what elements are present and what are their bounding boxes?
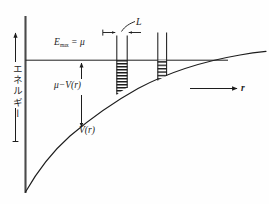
potential-curve-label: V(r) [79,126,95,136]
barrier-width-label: L [136,17,142,27]
barrier-one [117,36,128,95]
potential-barrier-figure: エネルギー Emax = μ μ−V(r) V(r) L r [0,0,269,204]
potential-curve [26,51,267,192]
barrier-two [158,33,167,81]
energy-equals-mu: = μ [69,37,85,47]
vertical-axis-label-energy: エネルギー [12,64,22,120]
figure-drawing-canvas [0,0,269,204]
barrier-width-leader-line [122,22,136,32]
horizontal-axis-label-r: r [241,84,245,94]
energy-subscript: max [60,42,69,48]
fermi-level-label: Emax = μ [54,38,85,48]
barrier-height-label: μ−V(r) [54,81,81,91]
